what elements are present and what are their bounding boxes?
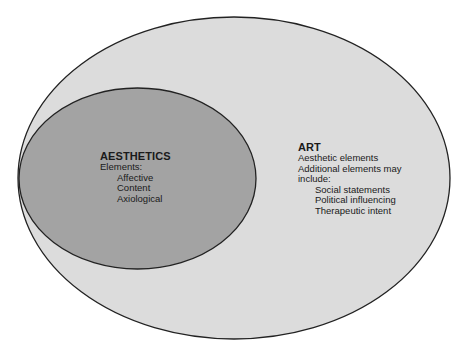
art-label: ART Aesthetic elements Additional elemen… bbox=[298, 142, 402, 216]
aesthetics-label: AESTHETICS Elements: Affective Content A… bbox=[100, 151, 171, 204]
art-aesthetic-elements-line: Aesthetic elements bbox=[298, 153, 402, 164]
aesthetics-item-axiological: Axiological bbox=[100, 194, 171, 205]
art-item-therapeutic-intent: Therapeutic intent bbox=[298, 206, 402, 217]
art-item-political-influencing: Political influencing bbox=[298, 195, 402, 206]
art-include-line: include: bbox=[298, 174, 402, 185]
aesthetics-item-content: Content bbox=[100, 183, 171, 194]
aesthetics-elements-heading: Elements: bbox=[100, 162, 171, 173]
